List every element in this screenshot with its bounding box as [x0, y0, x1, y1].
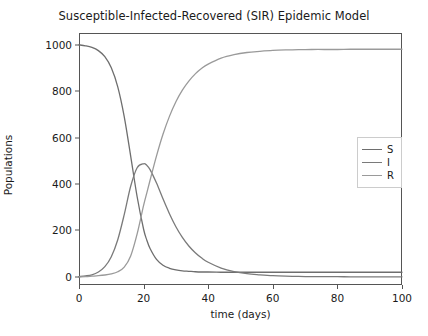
- x-axis-label: time (days): [79, 308, 402, 320]
- y-tick-mark: [75, 183, 79, 184]
- legend-swatch-icon: [362, 162, 382, 163]
- legend-label: I: [387, 158, 390, 168]
- series-line-r: [79, 49, 402, 277]
- x-tick-mark: [273, 285, 274, 289]
- x-tick-label: 0: [76, 292, 83, 304]
- x-tick-mark: [337, 285, 338, 289]
- y-tick-mark: [75, 91, 79, 92]
- x-tick-label: 60: [266, 292, 279, 304]
- y-tick-label: 1000: [45, 39, 72, 51]
- x-tick-label: 20: [137, 292, 150, 304]
- legend-label: S: [387, 145, 393, 155]
- y-axis-label: Populations: [2, 135, 14, 196]
- legend-label: R: [387, 171, 394, 181]
- series-line-s: [79, 45, 402, 272]
- y-tick-mark: [75, 44, 79, 45]
- legend-item-r: R: [362, 169, 396, 182]
- x-tick-mark: [208, 285, 209, 289]
- x-tick-mark: [144, 285, 145, 289]
- legend-swatch-icon: [362, 175, 382, 176]
- x-tick-mark: [402, 285, 403, 289]
- x-tick-label: 100: [392, 292, 412, 304]
- y-tick-label: 400: [52, 178, 72, 190]
- y-tick-label: 600: [52, 132, 72, 144]
- series-line-i: [79, 164, 402, 277]
- y-tick-mark: [75, 137, 79, 138]
- legend-item-s: S: [362, 143, 396, 156]
- y-tick-mark: [75, 230, 79, 231]
- chart-legend: SIR: [357, 137, 402, 188]
- chart-title: Susceptible-Infected-Recovered (SIR) Epi…: [0, 9, 428, 23]
- x-tick-label: 40: [202, 292, 215, 304]
- y-tick-label: 200: [52, 224, 72, 236]
- legend-item-i: I: [362, 156, 396, 169]
- x-tick-label: 80: [331, 292, 344, 304]
- y-tick-label: 0: [65, 271, 72, 283]
- x-tick-mark: [79, 285, 80, 289]
- sir-epidemic-chart-figure: Susceptible-Infected-Recovered (SIR) Epi…: [0, 0, 428, 336]
- legend-swatch-icon: [362, 149, 382, 150]
- plot-curves: [79, 33, 402, 285]
- y-tick-mark: [75, 276, 79, 277]
- y-tick-label: 800: [52, 85, 72, 97]
